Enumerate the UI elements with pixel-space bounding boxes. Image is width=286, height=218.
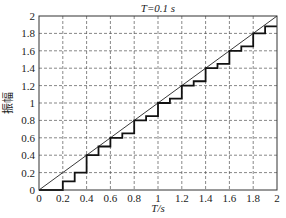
- y-tick-label: 1: [30, 97, 36, 109]
- y-tick-label: 0.2: [21, 167, 35, 179]
- y-tick-label: 0.8: [21, 114, 35, 126]
- x-tick-label: 0.6: [104, 192, 118, 204]
- chart: T=0.1 s 00.20.40.60.811.21.41.61.8200.20…: [0, 0, 286, 218]
- y-axis-label: 振幅: [1, 92, 14, 114]
- x-tick-label: 0.2: [56, 192, 70, 204]
- x-tick-label: 2: [274, 192, 280, 204]
- y-tick-label: 1.4: [21, 62, 35, 74]
- x-tick-label: 1.2: [175, 192, 189, 204]
- chart-title: T=0.1 s: [141, 2, 175, 14]
- x-tick-label: 0.8: [127, 192, 141, 204]
- y-tick-label: 1.6: [21, 45, 35, 57]
- x-tick-label: 1.4: [199, 192, 213, 204]
- x-tick-label: 1.8: [246, 192, 260, 204]
- y-tick-label: 2: [30, 10, 36, 22]
- y-tick-label: 0.4: [21, 149, 35, 161]
- y-tick-label: 0.6: [21, 132, 35, 144]
- x-tick-label: 0.4: [80, 192, 94, 204]
- y-tick-label: 0: [30, 184, 36, 196]
- y-tick-label: 1.2: [21, 80, 35, 92]
- x-tick-label: 0: [36, 192, 42, 204]
- x-axis-label: T/s: [151, 202, 164, 214]
- y-tick-label: 1.8: [21, 27, 35, 39]
- x-tick-label: 1.6: [223, 192, 237, 204]
